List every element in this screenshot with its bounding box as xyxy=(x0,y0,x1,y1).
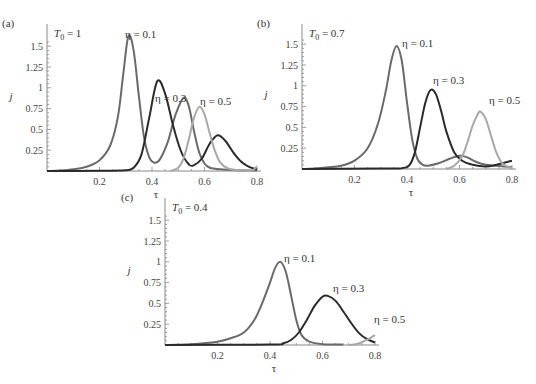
x-tick-label: 0.4 xyxy=(264,350,277,361)
y-tick-label: 1.5 xyxy=(149,215,162,226)
panel-b: 0.20.40.60.80.250.50.7511.251.5τj(b)T0 =… xyxy=(257,17,521,198)
panel-c: 0.20.40.60.80.250.50.7511.251.5τj(c)T0 =… xyxy=(121,191,406,374)
y-tick-label: 0.5 xyxy=(31,124,44,135)
y-tick-label: 0.75 xyxy=(26,103,44,114)
x-tick-label: 0.8 xyxy=(369,350,382,361)
y-tick-label: 1 xyxy=(38,82,43,93)
y-axis-label: j xyxy=(7,90,12,102)
y-tick-label: 1.5 xyxy=(286,39,299,50)
x-tick-label: 0.6 xyxy=(198,176,211,187)
x-tick-label: 0.8 xyxy=(506,174,519,185)
series-label: η = 0.5 xyxy=(489,94,521,106)
series-curve xyxy=(165,295,375,345)
panel-label: (c) xyxy=(121,191,134,204)
series-curve xyxy=(47,80,257,171)
y-tick-label: 0.75 xyxy=(144,277,162,288)
y-tick-label: 0.5 xyxy=(149,298,162,309)
series-label: η = 0.5 xyxy=(200,95,232,107)
x-tick-label: 0.4 xyxy=(401,174,414,185)
x-axis-label: τ xyxy=(272,362,277,374)
panel-label: (b) xyxy=(257,17,270,30)
series-label: η = 0.3 xyxy=(155,92,187,104)
panel-label: (a) xyxy=(2,17,15,30)
y-axis-label: j xyxy=(262,88,267,100)
series-label: η = 0.3 xyxy=(333,282,365,294)
x-tick-label: 0.8 xyxy=(251,176,264,187)
y-tick-label: 1.25 xyxy=(144,236,162,247)
series-label: η = 0.5 xyxy=(374,313,406,325)
y-tick-label: 0.5 xyxy=(286,122,299,133)
x-tick-label: 0.6 xyxy=(453,174,466,185)
x-tick-label: 0.4 xyxy=(146,176,159,187)
y-tick-label: 1 xyxy=(156,256,161,267)
y-tick-label: 1.25 xyxy=(26,62,44,73)
series-label: η = 0.1 xyxy=(284,252,315,264)
series-curve xyxy=(446,111,512,169)
y-tick-label: 0.25 xyxy=(26,145,44,156)
figure: 0.20.40.60.80.250.50.7511.251.5τj(a)T0 =… xyxy=(0,0,536,384)
y-tick-label: 1 xyxy=(293,80,298,91)
y-tick-label: 0.75 xyxy=(281,101,299,112)
panel-title: T0 = 0.4 xyxy=(172,201,208,216)
x-axis-label: τ xyxy=(154,188,159,200)
x-axis-label: τ xyxy=(409,186,414,198)
panel-a: 0.20.40.60.80.250.50.7511.251.5τj(a)T0 =… xyxy=(2,17,263,200)
x-tick-label: 0.2 xyxy=(211,350,224,361)
x-tick-label: 0.2 xyxy=(93,176,106,187)
y-tick-label: 1.25 xyxy=(281,60,299,71)
x-tick-label: 0.6 xyxy=(316,350,329,361)
y-axis-label: j xyxy=(125,264,130,276)
series-curve xyxy=(302,46,512,169)
panel-title: T0 = 0.7 xyxy=(309,27,345,42)
series-label: η = 0.1 xyxy=(402,37,433,49)
series-label: η = 0.1 xyxy=(125,28,156,40)
x-tick-label: 0.2 xyxy=(348,174,361,185)
y-tick-label: 0.25 xyxy=(144,319,162,330)
y-tick-label: 0.25 xyxy=(281,143,299,154)
panel-title: T0 = 1 xyxy=(54,27,81,42)
y-tick-label: 1.5 xyxy=(31,41,44,52)
series-label: η = 0.3 xyxy=(433,74,465,86)
